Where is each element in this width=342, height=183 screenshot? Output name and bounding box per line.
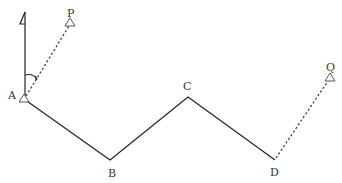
dashed-line-DQ [276,81,328,158]
control-point-A-icon [19,94,29,102]
traverse-diagram: A B C D P Q [0,0,342,183]
label-B: B [108,167,116,180]
label-P: P [67,7,75,20]
label-A: A [7,89,17,102]
north-arrow-icon [20,12,25,97]
label-C: C [183,80,191,93]
label-Q: Q [326,61,335,74]
dashed-line-AP [26,26,69,96]
control-point-Q-icon [325,73,335,81]
label-D: D [270,166,279,179]
traverse-line-ABCD [24,97,275,160]
